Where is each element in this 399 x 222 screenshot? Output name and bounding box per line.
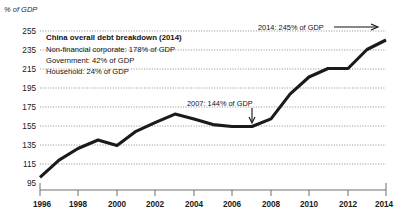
x-tick-label: 2002	[146, 200, 165, 209]
y-tick-label: 235	[22, 46, 36, 55]
y-tick-label: 115	[23, 160, 36, 169]
x-tick-label: 2008	[262, 200, 281, 209]
annotation-2014-label: 2014: 245% of GDP	[258, 23, 324, 32]
annotation-2007-label: 2007: 144% of GDP	[187, 99, 253, 108]
debt-to-gdp-line-chart: % of GDP 255 235 215 195 175 155 135 115…	[0, 0, 399, 222]
x-tick-label: 1996	[33, 200, 52, 209]
x-tick-label: 1998	[69, 200, 88, 209]
breakdown-item: Government: 42% of GDP	[46, 56, 134, 65]
x-tick-label: 2010	[300, 200, 319, 209]
x-tick-label: 2006	[223, 200, 242, 209]
y-tick-label: 195	[22, 84, 36, 93]
x-axis-tickmarks	[40, 190, 386, 196]
x-tick-label: 2012	[339, 200, 358, 209]
y-tick-label: 95	[27, 179, 37, 188]
x-axis-ticks: 1996 1998 2000 2002 2004 2006 2008 2010 …	[33, 200, 394, 209]
chart-canvas: % of GDP 255 235 215 195 175 155 135 115…	[0, 0, 399, 222]
y-tick-label: 215	[22, 65, 36, 74]
y-tick-label: 255	[22, 27, 36, 36]
x-tick-label: 2000	[108, 200, 127, 209]
x-tick-label: 2014	[375, 200, 394, 209]
y-tick-label: 175	[22, 103, 36, 112]
y-axis-title: % of GDP	[4, 5, 37, 14]
y-tick-label: 135	[22, 141, 36, 150]
breakdown-title: China overall debt breakdown (2014)	[46, 33, 182, 42]
debt-breakdown-note: China overall debt breakdown (2014) Non-…	[46, 33, 182, 76]
breakdown-item: Household: 24% of GDP	[46, 67, 129, 76]
y-axis-ticks: 255 235 215 195 175 155 135 115 95	[22, 27, 36, 188]
x-tick-label: 2004	[185, 200, 204, 209]
y-tick-label: 155	[22, 122, 36, 131]
breakdown-item: Non-financial corporate: 178% of GDP	[46, 45, 175, 54]
